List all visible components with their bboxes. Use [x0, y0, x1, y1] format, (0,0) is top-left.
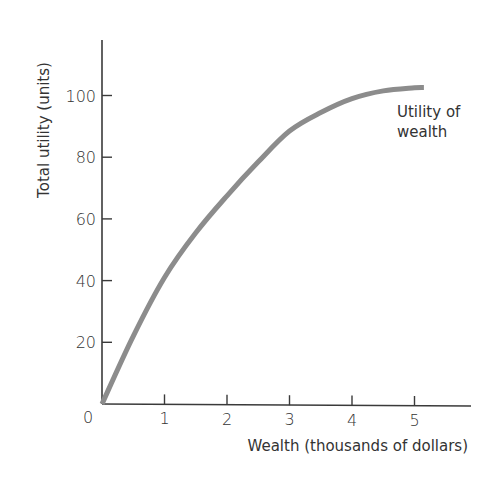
- y-ticks: 20406080100: [65, 87, 112, 353]
- y-tick-label: 40: [76, 272, 96, 291]
- x-tick-label: 4: [347, 411, 357, 430]
- x-tick-label: 5: [409, 411, 419, 430]
- x-tick-label: 1: [159, 409, 169, 428]
- x-tick-label: 3: [284, 410, 294, 429]
- utility-curve: [102, 87, 424, 404]
- x-axis: [102, 404, 471, 406]
- y-tick-label: 60: [76, 210, 96, 229]
- annotation-line-1: Utility of: [397, 103, 461, 121]
- x-axis-label: Wealth (thousands of dollars): [247, 437, 468, 455]
- x-ticks: 12345: [159, 394, 419, 430]
- x-tick-label: 2: [222, 410, 232, 429]
- annotation-line-2: wealth: [397, 123, 447, 141]
- curve-annotation: Utility of wealth: [397, 103, 465, 141]
- utility-of-wealth-chart: 20406080100 12345 0 Utility of wealth We…: [0, 0, 490, 477]
- y-tick-label: 80: [76, 148, 96, 167]
- y-tick-label: 20: [76, 333, 96, 352]
- origin-label: 0: [83, 408, 93, 427]
- y-tick-label: 100: [65, 87, 96, 106]
- y-axis-label: Total utility (units): [35, 62, 53, 199]
